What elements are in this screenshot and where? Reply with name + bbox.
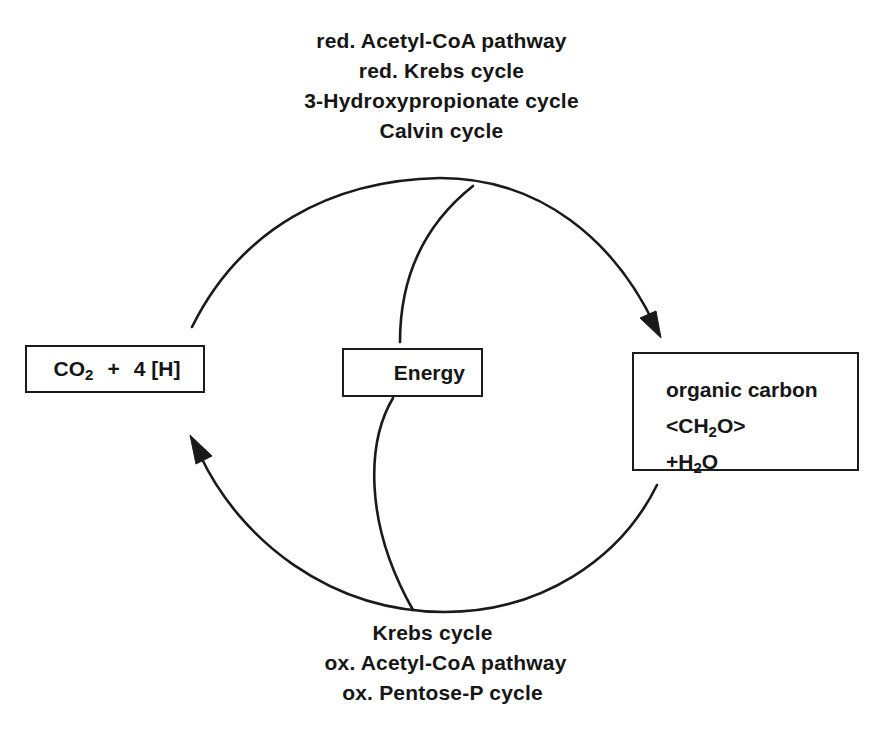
oxidative-pathways-labels: Krebs cycle ox. Acetyl-CoA pathway ox. P…: [0, 618, 883, 708]
arrowhead-to-organic-carbon-icon: [640, 311, 661, 338]
top-arc-reduction-path: [192, 178, 656, 328]
plus-sign: +: [107, 357, 119, 381]
pathway-label-red-acetyl-coa: red. Acetyl-CoA pathway: [0, 26, 883, 56]
co2-formula: CO2: [54, 357, 94, 381]
energy-output-curve: [374, 398, 413, 610]
pathway-label-3-hydroxypropionate: 3-Hydroxypropionate cycle: [0, 86, 883, 116]
hydrogen-equivalents: 4 [H]: [134, 357, 181, 381]
pathway-label-krebs: Krebs cycle: [0, 618, 883, 648]
reductive-pathways-labels: red. Acetyl-CoA pathway red. Krebs cycle…: [0, 26, 883, 146]
pathway-label-ox-acetyl-coa: ox. Acetyl-CoA pathway: [8, 648, 883, 678]
water-formula: +H2O: [666, 444, 857, 480]
energy-input-curve: [400, 186, 473, 342]
co2-hydrogen-node: CO2+4 [H]: [25, 345, 205, 393]
pathway-label-ox-pentose-p: ox. Pentose-P cycle: [2, 678, 883, 708]
energy-node: Energy: [342, 348, 483, 397]
ch2o-formula: <CH2O>: [666, 408, 857, 444]
energy-label: Energy: [394, 361, 465, 385]
pathway-label-red-krebs: red. Krebs cycle: [0, 56, 883, 86]
organic-carbon-label: organic carbon: [666, 372, 857, 408]
bottom-arc-oxidation-path: [200, 455, 657, 612]
arrowhead-to-co2-icon: [190, 435, 212, 464]
organic-carbon-node: organic carbon <CH2O> +H2O: [632, 352, 859, 471]
pathway-label-calvin: Calvin cycle: [0, 116, 883, 146]
